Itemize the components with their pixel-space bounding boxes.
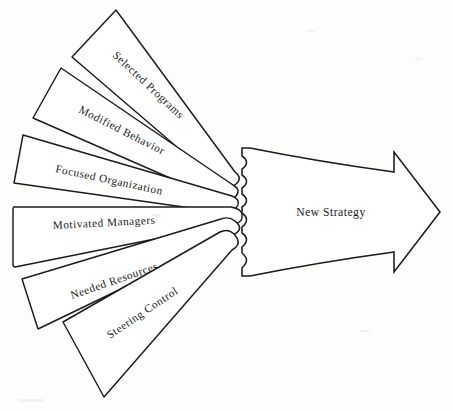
diagram-canvas: Selected Programs Modified Behavior Focu… [0,0,453,411]
output-arrow-new-strategy[interactable]: New Strategy [242,148,440,276]
output-label-new-strategy: New Strategy [296,206,365,219]
diagram-svg: Selected Programs Modified Behavior Focu… [0,0,453,411]
